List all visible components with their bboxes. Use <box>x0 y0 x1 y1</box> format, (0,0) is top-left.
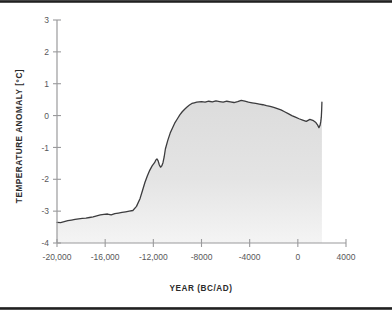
x-tick-label: -8000 <box>191 252 213 262</box>
plot-wrapper: -4-3-2-10123 -20,000-16,000-12,000-8000-… <box>0 3 392 307</box>
figure-container: -4-3-2-10123 -20,000-16,000-12,000-8000-… <box>0 0 392 310</box>
x-tick-label: -4000 <box>239 252 261 262</box>
y-tick-label: -3 <box>41 206 49 216</box>
x-tick-label: -16,000 <box>91 252 120 262</box>
y-tick-label: 0 <box>44 111 49 121</box>
x-axis-title: YEAR (BC/AD) <box>169 284 232 293</box>
temperature-anomaly-chart: -4-3-2-10123 -20,000-16,000-12,000-8000-… <box>0 3 392 307</box>
x-tick-label: -20,000 <box>43 252 72 262</box>
y-tick-label: -1 <box>41 143 49 153</box>
temperature-area-fill <box>57 100 322 243</box>
y-axis-ticks: -4-3-2-10123 <box>41 15 61 248</box>
x-tick-label: 0 <box>295 252 300 262</box>
y-tick-label: 1 <box>44 79 49 89</box>
x-tick-label: 4000 <box>337 252 356 262</box>
x-tick-label: -12,000 <box>139 252 168 262</box>
y-axis-title: TEMPERATURE ANOMALY [°C] <box>15 69 24 203</box>
y-tick-label: 3 <box>44 15 49 25</box>
y-tick-label: -4 <box>41 238 49 248</box>
y-tick-label: -2 <box>41 174 49 184</box>
y-tick-label: 2 <box>44 47 49 57</box>
